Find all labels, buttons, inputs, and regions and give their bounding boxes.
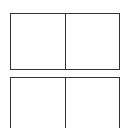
bottom-right-cell (65, 78, 120, 128)
top-left-cell (11, 14, 65, 69)
bottom-panel (10, 77, 120, 128)
top-right-cell (65, 14, 120, 69)
bottom-left-cell (11, 78, 65, 128)
top-panel (10, 13, 120, 70)
